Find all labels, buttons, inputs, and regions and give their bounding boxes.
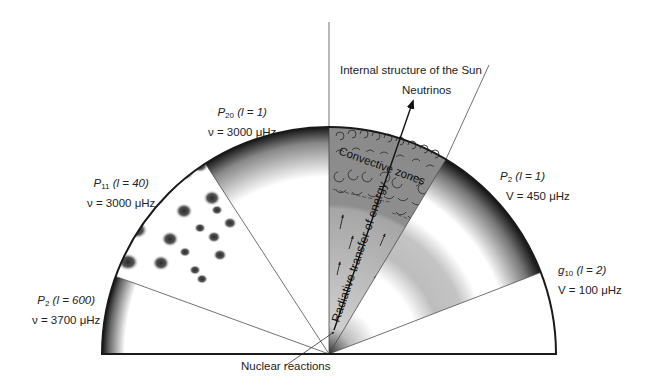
mode-degree: (l = 600) — [53, 294, 96, 306]
mode-frequency: V = 100 μHz — [558, 282, 622, 298]
mode-label-p20-l1: P20 (l = 1) ν = 3000 μHz — [208, 104, 276, 140]
mode-degree: (l = 2) — [577, 264, 607, 276]
mode-label-p2-l600: P2 (l = 600) ν = 3700 μHz — [32, 292, 100, 328]
mode-sub: 20 — [225, 111, 234, 120]
mode-sub: 2 — [508, 175, 512, 184]
mode-degree: (l = 1) — [515, 170, 545, 182]
mode-frequency: ν = 3700 μHz — [32, 312, 100, 328]
mode-sub: 10 — [564, 269, 573, 278]
mode-sub: 2 — [45, 299, 49, 308]
mode-name: P — [217, 106, 225, 118]
mode-frequency: V = 450 μHz — [500, 188, 570, 204]
mode-frequency: ν = 3000 μHz — [87, 195, 155, 211]
mode-name: P — [500, 170, 508, 182]
title-label: Internal structure of the Sun — [340, 62, 482, 78]
nuclear-reactions-label: Nuclear reactions — [241, 358, 330, 374]
mode-sub: 11 — [101, 182, 109, 191]
mode-degree: (l = 1) — [237, 106, 267, 118]
mode-name: P — [37, 294, 45, 306]
neutrinos-label: Neutrinos — [402, 82, 451, 98]
mode-label-p11-l40: P11 (l = 40) ν = 3000 μHz — [87, 175, 155, 211]
mode-frequency: ν = 3000 μHz — [208, 124, 276, 140]
mode-degree: (l = 40) — [113, 177, 149, 189]
mode-label-g10-l2: g10 (l = 2) V = 100 μHz — [558, 262, 622, 298]
mode-label-p2-l1: P2 (l = 1) V = 450 μHz — [500, 168, 570, 204]
